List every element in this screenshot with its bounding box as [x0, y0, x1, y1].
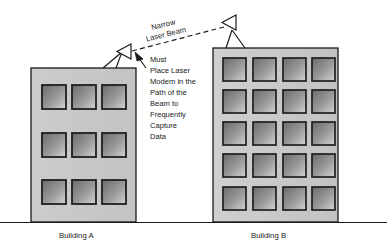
window — [253, 187, 276, 210]
window — [72, 85, 96, 109]
arrowhead-icon — [135, 52, 143, 61]
window — [312, 122, 335, 145]
window — [223, 90, 246, 113]
note-callout-arrow — [135, 52, 146, 68]
note-line: Frequently — [150, 110, 186, 119]
laser-head-icon — [222, 15, 236, 30]
laser-head-icon — [117, 44, 131, 59]
window — [102, 133, 126, 157]
window — [253, 122, 276, 145]
building-a-label: Building A — [59, 231, 94, 240]
window — [102, 85, 126, 109]
window — [42, 180, 66, 204]
window — [283, 58, 306, 81]
window — [312, 187, 335, 210]
window — [72, 133, 96, 157]
window — [72, 180, 96, 204]
window — [223, 58, 246, 81]
laser-modem-building-a — [103, 44, 131, 68]
mast-pole — [232, 30, 245, 48]
window — [253, 154, 276, 177]
building-b — [213, 48, 338, 222]
note-line: Path of the — [150, 88, 187, 97]
note-text-block: Must Place Laser Modem in the Path of th… — [150, 55, 196, 141]
note-line: Modem in the — [150, 77, 196, 86]
building-b-label: Building B — [251, 231, 286, 240]
window — [223, 154, 246, 177]
note-line: Must — [150, 55, 167, 64]
note-line: Beam to — [150, 99, 178, 108]
window — [253, 90, 276, 113]
window — [283, 154, 306, 177]
window — [312, 58, 335, 81]
note-line: Capture — [150, 121, 177, 130]
window — [223, 122, 246, 145]
note-line: Data — [150, 132, 167, 141]
mast-strut — [226, 30, 232, 48]
window — [312, 154, 335, 177]
diagram-canvas: Narrow Laser Beam Must Place Laser Modem… — [0, 0, 387, 246]
beam-label: Narrow Laser Beam — [143, 15, 187, 43]
window — [312, 90, 335, 113]
window — [223, 187, 246, 210]
laser-modem-building-b — [222, 15, 245, 48]
window — [253, 58, 276, 81]
window — [42, 133, 66, 157]
window — [42, 85, 66, 109]
window — [102, 180, 126, 204]
window — [283, 122, 306, 145]
note-line: Place Laser — [150, 66, 191, 75]
window — [283, 90, 306, 113]
building-a — [31, 68, 136, 222]
laser-link-diagram: Narrow Laser Beam Must Place Laser Modem… — [0, 0, 387, 246]
window — [283, 187, 306, 210]
